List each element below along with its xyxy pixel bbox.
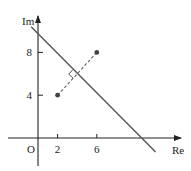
perpendicular-bisector-line: [31, 27, 155, 152]
point-b: [94, 50, 99, 55]
y-tick-label: 4: [27, 89, 33, 101]
point-a: [55, 93, 60, 98]
origin-label: O: [27, 143, 35, 155]
right-angle-marker: [69, 70, 73, 78]
argand-diagram: Im Re O 2648: [0, 0, 191, 171]
real-axis-label: Re: [172, 144, 184, 156]
x-tick-label: 6: [94, 143, 100, 155]
x-tick-label: 2: [55, 143, 61, 155]
y-tick-label: 8: [27, 46, 33, 58]
imaginary-axis-label: Im: [22, 15, 35, 27]
